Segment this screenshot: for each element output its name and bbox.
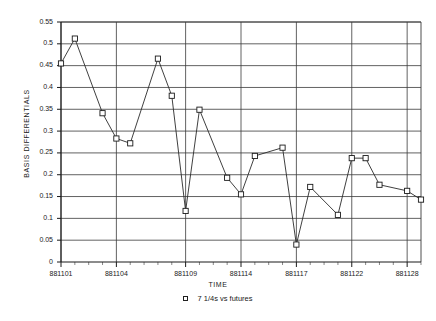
y-tick-label: 0.4: [13, 83, 53, 90]
x-tick-label: 881122: [322, 270, 382, 277]
y-tick-label: 0.15: [13, 192, 53, 199]
y-axis-ticks: [57, 22, 61, 262]
y-tick-label: 0.2: [13, 170, 53, 177]
y-tick-label: 0.5: [13, 39, 53, 46]
y-tick-label: 0.05: [13, 236, 53, 243]
y-tick-label: 0.3: [13, 127, 53, 134]
y-tick-label: 0.1: [13, 214, 53, 221]
y-tick-label: 0.55: [13, 18, 53, 25]
legend-series-label: 7 1/4s vs futures: [197, 294, 252, 303]
x-axis-major-ticks: [61, 262, 407, 267]
x-tick-label: 881104: [86, 270, 146, 277]
vertical-gridlines: [61, 22, 421, 262]
y-tick-label: 0: [13, 258, 53, 265]
x-tick-label: 881101: [31, 270, 91, 277]
x-tick-label: 881117: [266, 270, 326, 277]
x-tick-label: 881128: [377, 270, 436, 277]
y-tick-label: 0.45: [13, 61, 53, 68]
open-square-marker-icon: [183, 296, 188, 301]
chart-legend: 7 1/4s vs futures: [0, 294, 436, 303]
y-tick-label: 0.35: [13, 105, 53, 112]
x-axis-title: TIME: [0, 281, 436, 288]
y-tick-label: 0.25: [13, 148, 53, 155]
chart-container: BASIS DIFFERENTIALS TIME 00.050.10.150.2…: [0, 0, 436, 321]
x-tick-label: 881109: [156, 270, 216, 277]
x-tick-label: 881114: [211, 270, 271, 277]
